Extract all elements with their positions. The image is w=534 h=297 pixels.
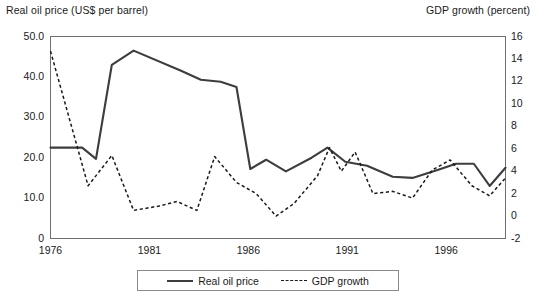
- y-axis-right-tick-label: -2: [511, 232, 534, 244]
- chart-container: Real oil price (US$ per barrel) GDP grow…: [0, 0, 534, 297]
- x-axis-tick-label: 1991: [324, 244, 370, 256]
- series-line-real-oil-price: [51, 51, 506, 186]
- plot-frame: [51, 37, 506, 239]
- y-axis-right-tick-label: 8: [511, 119, 534, 131]
- y-axis-left-tick-label: 10.0: [10, 191, 44, 203]
- legend-item-gdp-growth: GDP growth: [281, 275, 369, 287]
- y-axis-right-tick-label: 12: [511, 74, 534, 86]
- x-axis-tick-label: 1976: [28, 244, 74, 256]
- y-axis-left-tick-label: 30.0: [10, 110, 44, 122]
- legend-label-real-oil-price: Real oil price: [198, 275, 259, 287]
- y-axis-right-tick-label: 6: [511, 142, 534, 154]
- y-axis-left-tick-label: 50.0: [10, 30, 44, 42]
- y-axis-right-tick-label: 2: [511, 187, 534, 199]
- x-axis-tick-label: 1996: [423, 244, 469, 256]
- y-axis-right-tick-label: 14: [511, 52, 534, 64]
- y-axis-left-tick-label: 40.0: [10, 70, 44, 82]
- legend-label-gdp-growth: GDP growth: [312, 275, 369, 287]
- legend-item-real-oil-price: Real oil price: [167, 275, 259, 287]
- y-axis-left-tick-label: 0: [10, 232, 44, 244]
- legend-dashed-line-icon: [281, 280, 307, 281]
- y-axis-right-tick-label: 16: [511, 30, 534, 42]
- y-axis-right-tick-label: 10: [511, 97, 534, 109]
- x-axis-tick-label: 1981: [126, 244, 172, 256]
- series-line-gdp-growth: [51, 51, 506, 216]
- y-axis-right-tick-label: 0: [511, 209, 534, 221]
- x-axis-tick-label: 1986: [225, 244, 271, 256]
- y-axis-left-tick-label: 20.0: [10, 151, 44, 163]
- chart-legend: Real oil price GDP growth: [137, 270, 399, 291]
- legend-solid-line-icon: [167, 280, 193, 282]
- y-axis-right-tick-label: 4: [511, 164, 534, 176]
